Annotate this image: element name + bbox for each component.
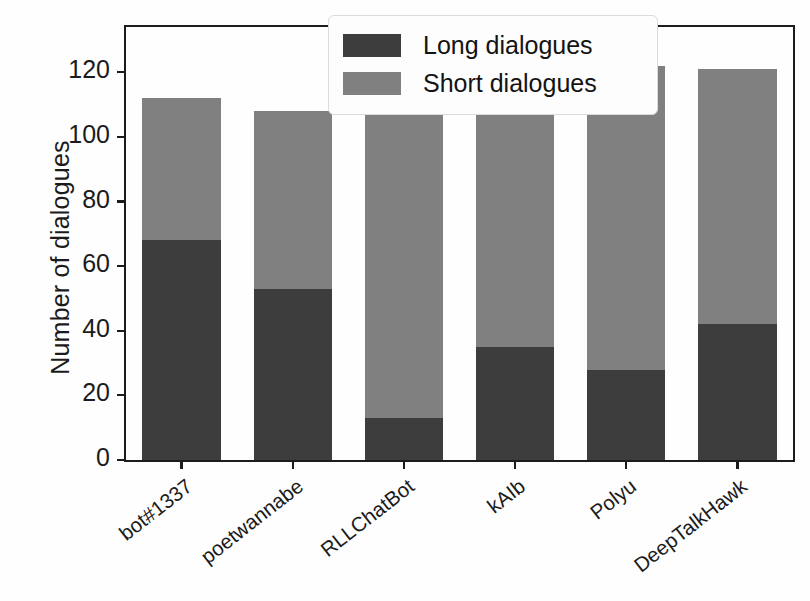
- x-tick-label: RLLChatBot: [316, 474, 418, 561]
- y-tick-label: 40: [82, 314, 110, 343]
- y-tick-label: 0: [96, 443, 110, 472]
- x-tick-mark: [625, 460, 627, 469]
- y-tick-label: 80: [82, 185, 110, 214]
- x-tick-mark: [514, 460, 516, 469]
- chart-legend: Long dialoguesShort dialogues: [328, 15, 658, 115]
- y-tick-mark: [117, 200, 126, 202]
- y-tick-mark: [117, 136, 126, 138]
- bar-segment: [254, 111, 332, 289]
- x-tick-label: poetwannabe: [196, 474, 307, 568]
- bar-column: [698, 69, 776, 460]
- bar-segment: [142, 240, 220, 460]
- x-tick-mark: [292, 460, 294, 469]
- bar-segment: [142, 98, 220, 240]
- legend-swatch: [343, 34, 401, 57]
- legend-label: Long dialogues: [423, 31, 593, 60]
- x-tick-label: DeepTalkHawk: [630, 474, 752, 576]
- y-tick-mark: [117, 265, 126, 267]
- legend-entry: Long dialogues: [343, 26, 643, 64]
- y-tick-label: 120: [68, 55, 110, 84]
- y-tick-mark: [117, 71, 126, 73]
- y-tick-label: 60: [82, 249, 110, 278]
- y-tick-label: 100: [68, 120, 110, 149]
- bar-segment: [365, 418, 443, 460]
- x-tick-label: Polyu: [586, 474, 641, 524]
- bar-column: [254, 111, 332, 460]
- x-tick-mark: [180, 460, 182, 469]
- x-tick-label: kAIb: [483, 474, 529, 517]
- bar-column: [587, 66, 665, 460]
- y-tick-mark: [117, 459, 126, 461]
- bar-segment: [698, 324, 776, 460]
- bar-segment: [254, 289, 332, 460]
- bar-column: [476, 66, 554, 460]
- y-tick-mark: [117, 330, 126, 332]
- legend-label: Short dialogues: [423, 69, 597, 98]
- bar-segment: [476, 347, 554, 460]
- x-tick-mark: [403, 460, 405, 469]
- bar-segment: [587, 370, 665, 460]
- bar-segment: [698, 69, 776, 324]
- y-tick-mark: [117, 394, 126, 396]
- x-tick-mark: [736, 460, 738, 469]
- chart-figure: Number of dialogues 020406080100120 bot#…: [0, 0, 810, 601]
- legend-entry: Short dialogues: [343, 64, 643, 102]
- bar-column: [142, 98, 220, 460]
- y-tick-label: 20: [82, 378, 110, 407]
- legend-swatch: [343, 72, 401, 95]
- x-tick-label: bot#1337: [114, 474, 196, 545]
